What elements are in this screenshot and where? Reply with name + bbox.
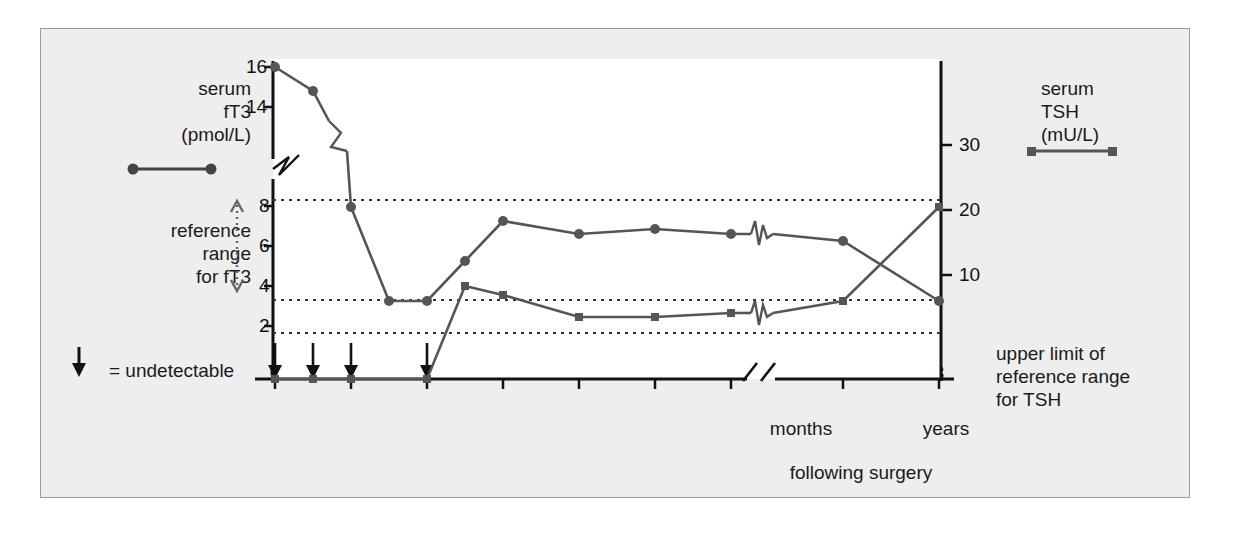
ft3-point bbox=[422, 296, 432, 306]
tsh-point bbox=[651, 313, 659, 321]
ft3-point bbox=[934, 296, 944, 306]
ft3-point bbox=[498, 216, 508, 226]
legend-tsh-marker-left bbox=[1027, 147, 1036, 156]
undetectable-key-arrow-icon bbox=[72, 347, 86, 377]
tsh-point bbox=[499, 291, 507, 299]
plot-background bbox=[273, 59, 941, 379]
legend-ft3-swatch bbox=[128, 164, 217, 175]
legend-tsh-marker-right bbox=[1108, 147, 1117, 156]
ft3-point bbox=[346, 202, 356, 212]
legend-tsh-swatch bbox=[1027, 147, 1117, 156]
tsh-point bbox=[423, 375, 431, 383]
tsh-point bbox=[727, 309, 735, 317]
ft3-point bbox=[460, 256, 470, 266]
legend-ft3-marker-right bbox=[206, 164, 217, 175]
tsh-point bbox=[575, 313, 583, 321]
tsh-point bbox=[271, 375, 279, 383]
tsh-point bbox=[309, 375, 317, 383]
legend-ft3-marker-left bbox=[128, 164, 139, 175]
ft3-point bbox=[574, 229, 584, 239]
tsh-point bbox=[347, 375, 355, 383]
tsh-point bbox=[935, 203, 943, 211]
ft3-point bbox=[650, 224, 660, 234]
ft3-point bbox=[308, 86, 318, 96]
chart-canvas bbox=[41, 29, 1191, 499]
ft3-point bbox=[838, 236, 848, 246]
reference-range-arrow-head-down bbox=[231, 280, 243, 291]
tsh-point bbox=[461, 282, 469, 290]
ft3-point bbox=[384, 296, 394, 306]
undetectable-key-arrow-head bbox=[72, 363, 86, 377]
ft3-point bbox=[726, 229, 736, 239]
figure-panel: serum fT3 (pmol/L) reference range for f… bbox=[40, 28, 1190, 498]
tsh-point bbox=[839, 297, 847, 305]
ft3-point bbox=[270, 62, 280, 72]
